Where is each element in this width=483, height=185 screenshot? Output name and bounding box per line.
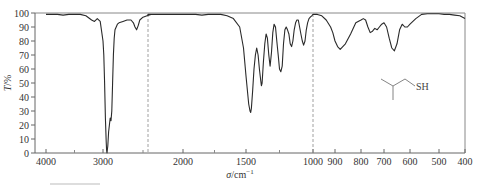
x-tick-label: 4000 xyxy=(36,156,56,167)
x-axis-title: σ/cm−1 xyxy=(226,168,254,180)
y-tick-label: 100 xyxy=(14,8,29,19)
thiol-label: SH xyxy=(416,81,429,92)
x-tick-label: 400 xyxy=(458,156,473,167)
x-tick-label: 3000 xyxy=(93,156,113,167)
y-tick-label: 10 xyxy=(19,134,29,145)
y-tick-label: 80 xyxy=(19,36,29,47)
x-tick-label: 600 xyxy=(403,156,418,167)
reference-dashed-lines xyxy=(148,14,313,153)
y-tick-label: 60 xyxy=(19,64,29,75)
x-tick-label: 500 xyxy=(432,156,447,167)
x-tick-label: 800 xyxy=(354,156,369,167)
transmittance-curve xyxy=(46,14,465,153)
y-tick-label: 90 xyxy=(19,22,29,33)
y-tick-label: 20 xyxy=(19,120,29,131)
x-tick-label: 900 xyxy=(328,156,343,167)
x-tick-label: 700 xyxy=(377,156,392,167)
plot-frame xyxy=(35,13,465,153)
y-axis-title: T/% xyxy=(2,75,13,92)
x-tick-label: 2000 xyxy=(173,156,193,167)
molecule-structure xyxy=(381,79,415,100)
x-tick-label: 1000 xyxy=(303,156,323,167)
bond-methyl-1 xyxy=(381,79,393,86)
y-tick-label: 70 xyxy=(19,50,29,61)
bond-ch2 xyxy=(393,79,405,86)
y-tick-label: 40 xyxy=(19,92,29,103)
y-tick-label: 50 xyxy=(19,78,29,89)
ir-spectrum-chart: 0102030405060708090100 40003000200015001… xyxy=(0,0,483,185)
y-tick-label: 0 xyxy=(24,148,29,159)
y-axis-ticks: 0102030405060708090100 xyxy=(14,8,35,159)
x-tick-label: 1500 xyxy=(236,156,256,167)
x-axis-ticks: 40003000200015001000900800700600500400 xyxy=(36,149,473,167)
bond-c-s xyxy=(405,79,415,86)
y-tick-label: 30 xyxy=(19,106,29,117)
